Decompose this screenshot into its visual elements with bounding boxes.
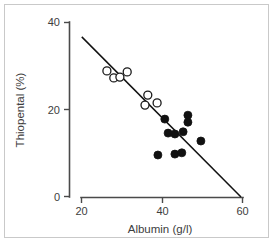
x-tick-label-60: 60: [236, 205, 248, 217]
data-point-open: [153, 99, 161, 107]
y-tick-label-0: 0: [54, 191, 60, 203]
data-point-open: [116, 73, 124, 81]
data-point-open: [141, 101, 149, 109]
data-point-filled: [154, 151, 162, 159]
data-point-filled: [171, 130, 179, 138]
data-point-filled: [197, 137, 205, 145]
data-point-filled: [184, 118, 192, 126]
x-axis-title: Albumin (g/l): [128, 223, 193, 235]
x-tick-label-40: 40: [156, 205, 168, 217]
y-tick-label-20: 20: [48, 104, 60, 116]
y-tick-label-40: 40: [48, 16, 60, 28]
data-point-filled: [178, 149, 186, 157]
x-tick-label-20: 20: [75, 205, 87, 217]
data-point-filled: [179, 128, 187, 136]
data-point-open: [123, 68, 131, 76]
figure-root: 40 20 0 20 40 60 Albumin (g/l) Thiopenta…: [0, 0, 274, 243]
data-point-open: [103, 67, 111, 75]
scatter-plot: 40 20 0 20 40 60 Albumin (g/l) Thiopenta…: [0, 0, 274, 243]
y-axis-title: Thiopental (%): [14, 72, 26, 147]
data-point-filled: [161, 115, 169, 123]
data-point-open: [144, 91, 152, 99]
